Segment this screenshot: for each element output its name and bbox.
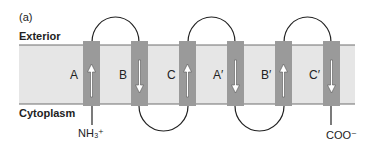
cytoplasm-loop-bc: [139, 106, 188, 131]
helix-b-prime: [275, 41, 292, 106]
cytoplasm-label: Cytoplasm: [19, 107, 75, 119]
helix-label-b: B: [119, 68, 127, 82]
panel-label: (a): [19, 11, 32, 23]
helix-label-a: A: [70, 68, 78, 82]
helix-c: [179, 41, 196, 106]
exterior-loop-bc: [284, 17, 331, 42]
membrane-topology-diagram: (a) Exterior Cytoplasm A B C A′ B′ C′ NH…: [0, 0, 370, 152]
helix-a: [83, 41, 100, 106]
helix-a-prime: [227, 41, 244, 106]
helix-label-c: C: [167, 68, 176, 82]
helix-label-a-prime: A′: [213, 68, 223, 82]
exterior-loop-ab: [92, 17, 139, 42]
helix-label-b-prime: B′: [261, 68, 271, 82]
helix-label-c-prime: C′: [309, 68, 320, 82]
n-terminus-label: NH₃⁺: [78, 127, 104, 140]
exterior-label: Exterior: [19, 30, 61, 42]
helix-c-prime: [323, 41, 340, 106]
exterior-loop-ca: [188, 17, 235, 42]
helix-b: [131, 41, 148, 106]
c-terminus-label: COO⁻: [326, 129, 357, 142]
cytoplasm-loop-ab: [235, 106, 284, 131]
